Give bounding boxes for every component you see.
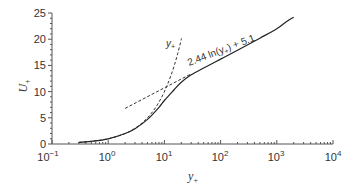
- y-tick-labels: 0 5 10 15 20 25: [34, 7, 46, 150]
- x-tick-label-1e2: 102: [212, 149, 229, 163]
- viscous-sublayer-label: y+: [165, 38, 175, 50]
- x-tick-label-1e1: 101: [156, 149, 173, 163]
- axes: [48, 13, 333, 144]
- y-axis-ticks: [48, 13, 52, 144]
- y-tick-label-15: 15: [34, 59, 46, 71]
- log-law-line: [125, 74, 191, 109]
- x-tick-label-1e3: 103: [268, 149, 285, 163]
- y-tick-label-10: 10: [34, 86, 46, 98]
- y-tick-label-25: 25: [34, 7, 46, 19]
- y-tick-label-20: 20: [34, 33, 46, 45]
- x-tick-label-1e4: 104: [325, 149, 342, 163]
- velocity-profile-curve: [79, 17, 294, 142]
- x-axis-title: y+: [187, 169, 198, 185]
- log-law-label: 2.44 ln(y+) + 5.1: [186, 32, 257, 69]
- y-axis-title: U+: [16, 79, 32, 93]
- chart: 0 5 10 15 20 25 10−1 100 101 102 103 104…: [0, 0, 356, 185]
- viscous-sublayer-line: [79, 39, 182, 143]
- y-tick-label-0: 0: [40, 138, 46, 150]
- x-tick-labels: 10−1 100 101 102 103 104: [37, 149, 342, 163]
- x-tick-label-1e-1: 10−1: [37, 149, 59, 163]
- x-tick-label-1e0: 100: [99, 149, 116, 163]
- y-tick-label-5: 5: [40, 112, 46, 124]
